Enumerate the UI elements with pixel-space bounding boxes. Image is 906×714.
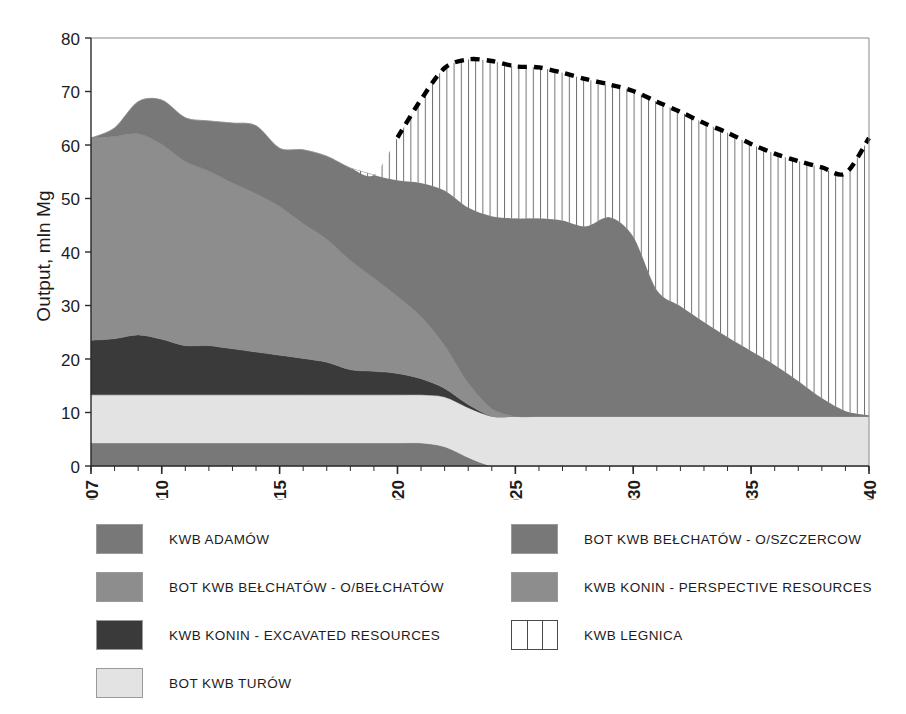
legend-column-left: KWB ADAMÓWBOT KWB BEŁCHATÓW - O/BEŁCHATÓ… [96, 515, 444, 707]
legend-item[interactable]: KWB KONIN - EXCAVATED RESOURCES [96, 611, 444, 659]
legend-item-label: BOT KWB BEŁCHATÓW - O/SZCZERCOW [584, 532, 861, 547]
legend-item[interactable]: BOT KWB BEŁCHATÓW - O/BEŁCHATÓW [96, 563, 444, 611]
y-tick-label: 80 [61, 30, 80, 49]
legend-item[interactable]: KWB KONIN - PERSPECTIVE RESOURCES [511, 563, 872, 611]
x-tick-label: 2025 [507, 480, 526, 500]
y-tick-label: 0 [71, 458, 80, 477]
legend-item-label: BOT KWB BEŁCHATÓW - O/BEŁCHATÓW [169, 580, 444, 595]
legend-swatch-icon [96, 620, 143, 650]
legend-swatch-icon [511, 620, 558, 650]
plot-area: 0102030405060708020072010201520202025203… [0, 0, 906, 500]
legend-item[interactable]: KWB ADAMÓW [96, 515, 444, 563]
x-tick-label: 2040 [861, 480, 880, 500]
legend-item[interactable]: KWB LEGNICA [511, 611, 872, 659]
legend-item-label: KWB LEGNICA [584, 628, 683, 643]
x-tick-label: 2010 [153, 480, 172, 500]
legend-swatch-icon [511, 524, 558, 554]
legend-swatch-icon [96, 524, 143, 554]
x-axis-minor-ticks-group [91, 466, 869, 471]
x-tick-label: 2020 [389, 480, 408, 500]
legend-swatch-icon [96, 572, 143, 602]
y-tick-label: 50 [61, 190, 80, 209]
legend-item[interactable]: BOT KWB BEŁCHATÓW - O/SZCZERCOW [511, 515, 872, 563]
x-tick-label: 2015 [271, 480, 290, 500]
x-axis-ticks-group: 20072010201520202025203020352040 [83, 466, 880, 500]
legend-item[interactable]: BOT KWB TURÓW [96, 659, 444, 707]
y-tick-label: 40 [61, 244, 80, 263]
chart-legend: KWB ADAMÓWBOT KWB BEŁCHATÓW - O/BEŁCHATÓ… [0, 515, 906, 714]
legend-item-label: KWB ADAMÓW [169, 532, 270, 547]
legend-swatch-icon [96, 668, 143, 698]
y-axis-ticks-group: 01020304050607080 [61, 30, 91, 477]
x-tick-label: 2035 [743, 480, 762, 500]
y-tick-label: 70 [61, 83, 80, 102]
chart-figure: 0102030405060708020072010201520202025203… [0, 0, 906, 714]
y-tick-label: 20 [61, 351, 80, 370]
x-tick-label: 2007 [83, 480, 102, 500]
legend-item-label: BOT KWB TURÓW [169, 676, 291, 691]
legend-swatch-icon [511, 572, 558, 602]
stacked-area-chart-svg: 0102030405060708020072010201520202025203… [0, 0, 906, 500]
y-tick-label: 30 [61, 297, 80, 316]
x-tick-label: 2030 [625, 480, 644, 500]
legend-item-label: KWB KONIN - EXCAVATED RESOURCES [169, 628, 440, 643]
y-tick-label: 10 [61, 404, 80, 423]
legend-item-label: KWB KONIN - PERSPECTIVE RESOURCES [584, 580, 872, 595]
y-axis-title: Output, mln Mg [33, 126, 55, 386]
legend-column-right: BOT KWB BEŁCHATÓW - O/SZCZERCOWKWB KONIN… [511, 515, 872, 659]
y-tick-label: 60 [61, 137, 80, 156]
stacked-areas-group [91, 59, 869, 467]
